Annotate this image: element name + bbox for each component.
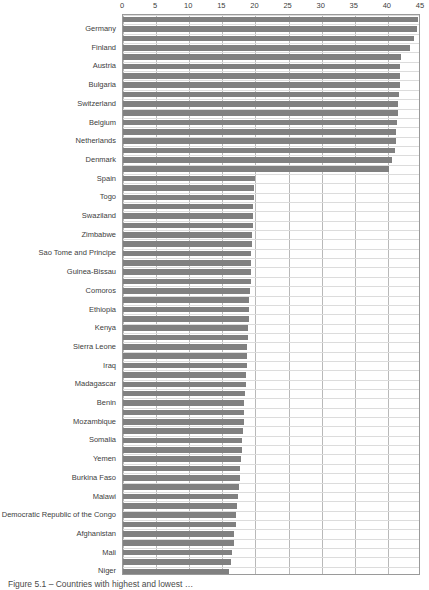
bar <box>123 213 253 219</box>
plot-area <box>122 14 420 575</box>
bar <box>123 569 229 575</box>
bar <box>123 288 250 294</box>
figure-caption: Figure 5.1 – Countries with highest and … <box>8 579 428 590</box>
category-label-ethiopia: Ethiopia <box>89 304 116 313</box>
bar <box>123 400 244 406</box>
category-label-belgium: Belgium <box>89 117 116 126</box>
bar <box>123 73 400 79</box>
bar <box>123 438 242 444</box>
category-label-germany: Germany <box>85 24 116 33</box>
bar <box>123 335 248 341</box>
bar <box>123 522 236 528</box>
category-label-benin: Benin <box>97 398 116 407</box>
bar <box>123 447 242 453</box>
bar <box>123 494 238 500</box>
x-tick-label-25: 25 <box>283 1 291 11</box>
bar <box>123 223 253 229</box>
category-label-togo: Togo <box>100 192 116 201</box>
bar <box>123 382 246 388</box>
category-label-finland: Finland <box>91 42 116 51</box>
x-tick-label-40: 40 <box>383 1 391 11</box>
x-tick-label-5: 5 <box>153 1 157 11</box>
category-label-comoros: Comoros <box>86 285 116 294</box>
bar <box>123 120 397 126</box>
bar <box>123 232 252 238</box>
bar <box>123 166 389 172</box>
bar <box>123 353 247 359</box>
bar <box>123 64 400 70</box>
category-label-mali: Mali <box>102 547 116 556</box>
bar <box>123 204 253 210</box>
bar <box>123 531 234 537</box>
bar <box>123 419 244 425</box>
bar <box>123 92 399 98</box>
bar <box>123 17 418 23</box>
bar <box>123 466 240 472</box>
bar <box>123 456 241 462</box>
bar <box>123 82 400 88</box>
x-tick-label-20: 20 <box>250 1 258 11</box>
bar <box>123 363 247 369</box>
x-tick-label-0: 0 <box>120 1 124 11</box>
bar <box>123 503 237 509</box>
x-tick-label-10: 10 <box>184 1 192 11</box>
category-label-mozambique: Mozambique <box>73 416 116 425</box>
bar <box>123 325 248 331</box>
bar <box>123 540 234 546</box>
bar <box>123 110 398 116</box>
bar <box>123 316 249 322</box>
category-label-democratic-republic-of-the-congo: Democratic Republic of the Congo <box>2 510 116 519</box>
bar-chart: 051015202530354045 GermanyFinlandAustria… <box>0 0 429 590</box>
x-tick-label-35: 35 <box>350 1 358 11</box>
category-label-zimbabwe: Zimbabwe <box>81 229 116 238</box>
category-label-guinea-bissau: Guinea-Bissau <box>67 267 116 276</box>
x-axis: 051015202530354045 <box>0 0 429 14</box>
category-label-somalia: Somalia <box>89 435 116 444</box>
bar <box>123 512 236 518</box>
category-label-niger: Niger <box>98 566 116 575</box>
bar <box>123 195 254 201</box>
category-label-netherlands: Netherlands <box>76 136 116 145</box>
category-label-burkina-faso: Burkina Faso <box>72 472 116 481</box>
bar <box>123 129 396 135</box>
bar <box>123 260 251 266</box>
bar <box>123 54 401 60</box>
bar <box>123 279 251 285</box>
bar <box>123 157 392 163</box>
category-label-austria: Austria <box>93 61 116 70</box>
bar <box>123 138 396 144</box>
category-label-swaziland: Swaziland <box>82 211 116 220</box>
x-tick-label-15: 15 <box>217 1 225 11</box>
category-label-kenya: Kenya <box>95 323 116 332</box>
bar <box>123 559 231 565</box>
bar <box>123 297 249 303</box>
bar <box>123 36 414 42</box>
category-labels: GermanyFinlandAustriaBulgariaSwitzerland… <box>0 14 119 575</box>
bar <box>123 148 395 154</box>
x-tick-label-45: 45 <box>416 1 424 11</box>
bar <box>123 410 244 416</box>
category-label-iraq: Iraq <box>103 360 116 369</box>
bar <box>123 391 245 397</box>
category-label-malawi: Malawi <box>93 491 116 500</box>
category-label-sierra-leone: Sierra Leone <box>73 341 116 350</box>
bar <box>123 26 417 32</box>
bar <box>123 550 232 556</box>
bar <box>123 428 243 434</box>
bar <box>123 101 398 107</box>
category-label-switzerland: Switzerland <box>77 98 116 107</box>
bar <box>123 185 254 191</box>
category-label-denmark: Denmark <box>86 154 116 163</box>
bar <box>123 45 410 51</box>
x-tick-label-30: 30 <box>316 1 324 11</box>
bar <box>123 269 251 275</box>
bar <box>123 241 252 247</box>
bar <box>123 176 255 182</box>
category-label-yemen: Yemen <box>93 454 116 463</box>
category-label-bulgaria: Bulgaria <box>88 80 116 89</box>
bars-layer <box>123 15 419 574</box>
category-label-spain: Spain <box>97 173 116 182</box>
bar <box>123 372 246 378</box>
bar <box>123 307 249 313</box>
bar <box>123 475 240 481</box>
